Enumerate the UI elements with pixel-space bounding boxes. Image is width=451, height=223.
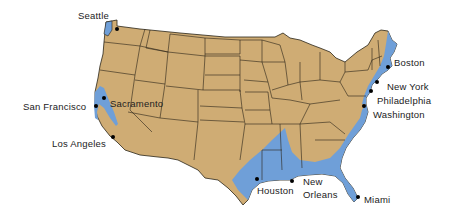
city-dot-miami (356, 195, 360, 199)
city-dot-new-york (375, 80, 379, 84)
city-label-philadelphia: Philadelphia (377, 96, 431, 106)
city-label-los-angeles: Los Angeles (52, 139, 106, 149)
city-dot-san-francisco (94, 104, 98, 108)
city-label-miami: Miami (364, 195, 390, 205)
city-label-new-orleans-line1: New (303, 177, 323, 187)
city-label-new-orleans-line2: Orleans (303, 190, 338, 200)
city-label-sacramento: Sacramento (110, 99, 163, 109)
city-label-new-york: New York (387, 82, 429, 92)
city-dot-sacramento (102, 96, 106, 100)
city-label-san-francisco: San Francisco (23, 102, 86, 112)
city-dot-philadelphia (369, 89, 373, 93)
city-label-washington: Washington (373, 110, 425, 120)
city-dot-seattle (115, 27, 119, 31)
city-label-houston: Houston (257, 186, 294, 196)
city-label-seattle: Seattle (78, 11, 109, 21)
city-label-boston: Boston (394, 58, 425, 68)
city-dot-houston (255, 177, 259, 181)
city-dot-washington (362, 104, 366, 108)
city-dot-boston (386, 65, 390, 69)
city-dot-new-orleans (290, 179, 294, 183)
city-dot-los-angeles (111, 135, 115, 139)
